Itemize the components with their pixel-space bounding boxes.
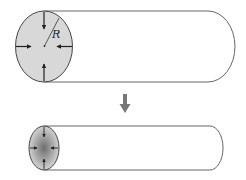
compressed-cylinder: [29, 126, 223, 170]
center-point: [44, 45, 46, 47]
radius-label: R: [51, 28, 60, 41]
large-cylinder: R: [16, 11, 235, 82]
transition-arrow-icon: [120, 94, 131, 113]
cylinder-compression-diagram: R: [0, 0, 246, 180]
compressed-cylinder-body: [44, 126, 223, 170]
